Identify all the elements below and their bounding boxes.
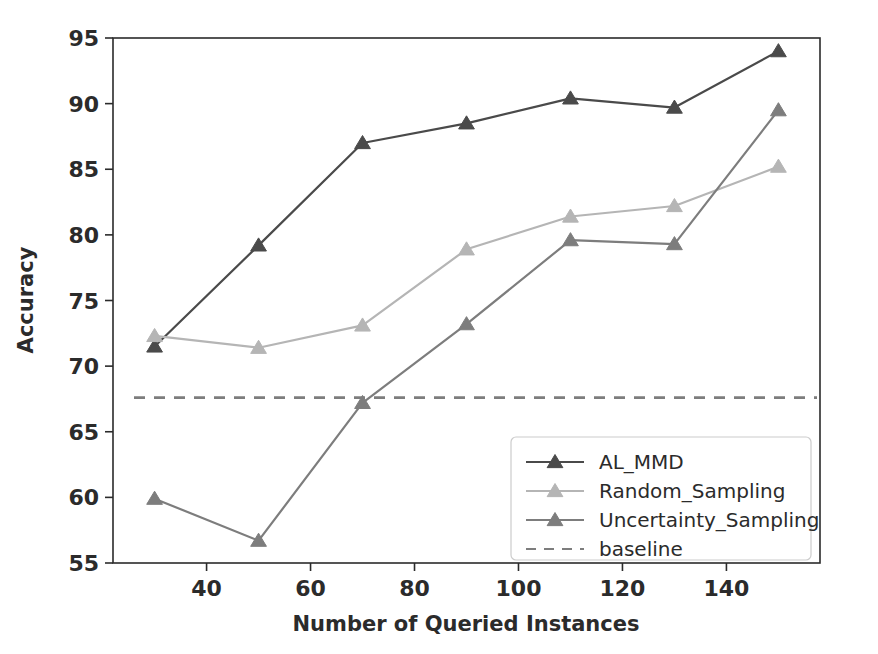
x-tick-label: 60	[295, 576, 326, 601]
legend-label-random_sampling: Random_Sampling	[599, 479, 785, 503]
y-tick-label: 95	[68, 26, 99, 51]
y-axis-title: Accuracy	[14, 246, 38, 353]
x-tick-label: 100	[496, 576, 542, 601]
y-tick-label: 80	[68, 223, 99, 248]
y-tick-label: 60	[68, 485, 99, 510]
y-axis-ticks: 556065707580859095	[68, 26, 113, 576]
x-tick-label: 140	[703, 576, 749, 601]
y-tick-label: 85	[68, 157, 99, 182]
x-tick-label: 80	[399, 576, 430, 601]
x-axis-title: Number of Queried Instances	[292, 612, 639, 636]
y-tick-label: 55	[68, 551, 99, 576]
y-tick-label: 65	[68, 420, 99, 445]
y-tick-label: 70	[68, 354, 99, 379]
accuracy-vs-queried-instances-chart: 556065707580859095 406080100120140 Numbe…	[0, 0, 878, 654]
legend-label-baseline: baseline	[599, 537, 683, 561]
legend-label-uncertainty_sampling: Uncertainty_Sampling	[599, 508, 819, 532]
legend-label-al_mmd: AL_MMD	[599, 450, 684, 474]
x-axis-ticks: 406080100120140	[191, 563, 749, 601]
x-tick-label: 40	[191, 576, 222, 601]
chart-legend: AL_MMDRandom_SamplingUncertainty_Samplin…	[511, 437, 819, 561]
chart-figure: 556065707580859095 406080100120140 Numbe…	[0, 0, 878, 654]
x-tick-label: 120	[599, 576, 645, 601]
y-tick-label: 75	[68, 289, 99, 314]
y-tick-label: 90	[68, 92, 99, 117]
